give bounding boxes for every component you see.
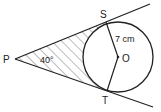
radius-label: 7 cm [115,34,135,44]
center-dot [117,56,120,59]
label-o: O [122,53,130,64]
label-s: S [100,9,107,20]
label-t: T [102,95,108,106]
label-p: P [3,54,10,65]
tangent-circle-diagram: P S T O 7 cm 40° [0,0,161,112]
radius-ot [107,57,118,91]
angle-label: 40° [40,55,54,65]
